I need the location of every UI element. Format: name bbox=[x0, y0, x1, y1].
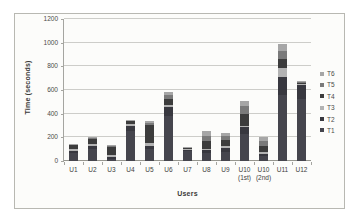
x-tick-mark bbox=[273, 162, 274, 165]
y-tick-label: 400 bbox=[47, 110, 58, 117]
legend-marker-t1 bbox=[320, 128, 324, 132]
legend-item-t4: T4 bbox=[320, 93, 346, 100]
bar-segment-t3-u12 bbox=[297, 84, 306, 85]
x-tick-label: U6 bbox=[164, 166, 172, 174]
bar-segment-t2-u10-1st- bbox=[240, 127, 249, 134]
bar-segment-t5-u2 bbox=[88, 138, 97, 139]
gridline bbox=[64, 136, 311, 137]
bar-segment-t6-u7 bbox=[183, 147, 192, 148]
bar-segment-t2-u9 bbox=[221, 148, 230, 152]
legend-label: T5 bbox=[327, 81, 335, 88]
bar-segment-t6-u4 bbox=[126, 120, 135, 121]
bar-segment-t6-u12 bbox=[297, 81, 306, 82]
bar-segment-t5-u8 bbox=[202, 136, 211, 142]
y-tick-label: 200 bbox=[47, 133, 58, 140]
bar-segment-t1-u10-2nd- bbox=[259, 156, 268, 161]
y-axis-tick-labels: 020040060080010001200 bbox=[15, 19, 60, 161]
y-tick-label: 800 bbox=[47, 62, 58, 69]
bar-segment-t2-u5 bbox=[145, 146, 154, 150]
x-tick-label: U9 bbox=[221, 166, 229, 174]
bar-segment-t1-u10-1st- bbox=[240, 134, 249, 161]
legend-item-t6: T6 bbox=[320, 70, 346, 77]
bar-segment-t4-u4 bbox=[126, 121, 135, 124]
bar-segment-t3-u5 bbox=[145, 143, 154, 146]
bar-segment-t6-u6 bbox=[164, 92, 173, 96]
bar-segment-t6-u8 bbox=[202, 131, 211, 135]
legend-marker-t4 bbox=[320, 94, 324, 98]
x-tick-label: U3 bbox=[107, 166, 115, 174]
y-tick-mark bbox=[61, 66, 64, 67]
legend-marker-t5 bbox=[320, 83, 324, 87]
bar-segment-t2-u2 bbox=[88, 146, 97, 149]
legend-label: T6 bbox=[327, 70, 335, 77]
x-tick-mark bbox=[254, 162, 255, 165]
x-tick-mark bbox=[235, 162, 236, 165]
bar-segment-t5-u4 bbox=[126, 120, 135, 121]
y-tick-label: 1000 bbox=[44, 39, 58, 46]
bar-segment-t5-u11 bbox=[278, 51, 287, 59]
bar-segment-t5-u10-1st- bbox=[240, 106, 249, 114]
legend-item-t2: T2 bbox=[320, 116, 346, 123]
bar-segment-t3-u4 bbox=[126, 124, 135, 126]
x-tick-label: U12 bbox=[296, 166, 308, 174]
bar-segment-t2-u8 bbox=[202, 150, 211, 152]
bar-segment-t1-u7 bbox=[183, 151, 192, 161]
bar-segment-t4-u10-2nd- bbox=[259, 146, 268, 152]
bar-segment-t1-u2 bbox=[88, 149, 97, 161]
legend-label: T3 bbox=[327, 104, 335, 111]
x-tick-mark bbox=[159, 162, 160, 165]
x-tick-mark bbox=[178, 162, 179, 165]
bar-segment-t1-u5 bbox=[145, 149, 154, 161]
bar-segment-t4-u12 bbox=[297, 82, 306, 84]
x-tick-mark bbox=[121, 162, 122, 165]
bar-segment-t4-u2 bbox=[88, 139, 97, 144]
x-tick-label: U11 bbox=[277, 166, 288, 174]
bar-segment-t1-u11 bbox=[278, 95, 287, 161]
bar-segment-t2-u3 bbox=[107, 157, 116, 159]
bar-segment-t3-u11 bbox=[278, 68, 287, 77]
x-tick-mark bbox=[102, 162, 103, 165]
x-axis-tick-labels: U1U2U3U4U5U6U7U8U9U10(1st)U10(2nd)U11U12 bbox=[64, 166, 311, 190]
y-tick-mark bbox=[61, 19, 64, 20]
bar-segment-t4-u7 bbox=[183, 147, 192, 148]
bar-segment-t5-u5 bbox=[145, 123, 154, 125]
bar-segment-t3-u9 bbox=[221, 146, 230, 148]
bar-segment-t1-u4 bbox=[126, 131, 135, 161]
legend-marker-t6 bbox=[320, 72, 324, 76]
bar-segment-t1-u1 bbox=[69, 153, 78, 161]
bar-segment-t1-u3 bbox=[107, 159, 116, 161]
plot-area bbox=[64, 19, 311, 161]
legend-item-t5: T5 bbox=[320, 81, 346, 88]
bar-segment-t3-u3 bbox=[107, 155, 116, 157]
gridline bbox=[64, 113, 311, 114]
x-tick-label: U10(1st) bbox=[238, 166, 251, 182]
x-tick-label: U7 bbox=[183, 166, 191, 174]
x-tick-mark bbox=[292, 162, 293, 165]
y-tick-label: 600 bbox=[47, 86, 58, 93]
x-tick-label: U10(2nd) bbox=[256, 166, 271, 182]
x-tick-mark bbox=[197, 162, 198, 165]
bar-segment-t6-u10-1st- bbox=[240, 101, 249, 106]
legend-label: T1 bbox=[327, 127, 335, 134]
x-tick-label: U2 bbox=[88, 166, 96, 174]
bar-segment-t4-u1 bbox=[69, 145, 78, 149]
bar-segment-t4-u11 bbox=[278, 59, 287, 68]
bar-segment-t1-u9 bbox=[221, 152, 230, 161]
bar-segment-t5-u3 bbox=[107, 146, 116, 147]
bar-segment-t2-u10-2nd- bbox=[259, 154, 268, 156]
bar-segment-t3-u8 bbox=[202, 149, 211, 151]
bar-segment-t2-u11 bbox=[278, 77, 287, 95]
bar-segment-t1-u8 bbox=[202, 153, 211, 161]
bar-segment-t5-u6 bbox=[164, 95, 173, 99]
y-tick-mark bbox=[61, 90, 64, 91]
bar-segment-t5-u1 bbox=[69, 144, 78, 145]
legend-label: T4 bbox=[327, 93, 335, 100]
bar-segment-t1-u12 bbox=[297, 99, 306, 161]
bar-segment-t5-u12 bbox=[297, 82, 306, 83]
bar-segment-t6-u9 bbox=[221, 133, 230, 136]
chart-figure: Time (seconds) 020040060080010001200 U1U… bbox=[14, 13, 345, 209]
bar-segment-t6-u11 bbox=[278, 44, 287, 51]
y-tick-label: 1200 bbox=[44, 15, 58, 22]
y-tick-mark bbox=[61, 137, 64, 138]
legend-marker-t2 bbox=[320, 117, 324, 121]
